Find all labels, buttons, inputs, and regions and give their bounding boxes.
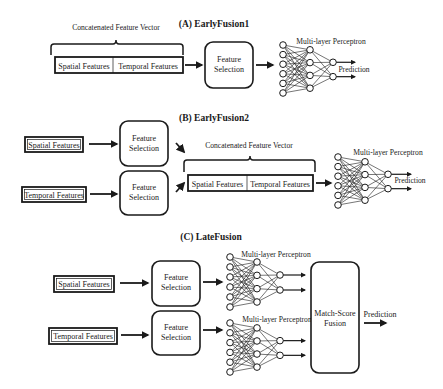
panel-a-fs-line1: Feature: [217, 55, 241, 64]
panel-c-title: (C) LateFusion: [180, 232, 242, 243]
panel-a-fs-line2: Selection: [214, 65, 244, 74]
panel-c-spatial-input: Spatial Features: [54, 276, 114, 292]
panel-a-mlp-label: Multi-layer Perceptron: [296, 37, 366, 46]
panel-b-mlp-label: Multi-layer Perceptron: [353, 148, 423, 157]
panel-b-title: (B) EarlyFusion2: [179, 113, 249, 124]
panel-c-fs1-line1: Feature: [164, 273, 188, 282]
panel-c-feature-selection-temporal: Feature Selection: [152, 311, 200, 355]
panel-a-temporal-segment: Temporal Features: [118, 62, 178, 71]
fusion-architectures-diagram: (A) EarlyFusion1 Concatenated Feature Ve…: [0, 0, 443, 389]
panel-b-concat-label: Concatenated Feature Vector: [205, 141, 293, 150]
panel-c-mlp-spatial-icon: [227, 254, 305, 311]
panel-c-mlp2-label: Multi-layer Perceptron: [242, 315, 312, 324]
panel-c-temporal-label: Temporal Features: [53, 332, 113, 341]
panel-b-fs2-line1: Feature: [132, 183, 156, 192]
panel-b-fs2-line2: Selection: [129, 193, 159, 202]
panel-a-brace-icon: [51, 40, 183, 55]
panel-c-mlp1-label: Multi-layer Perceptron: [241, 250, 311, 259]
panel-c-fusion-line1: Match-Score: [314, 309, 356, 318]
panel-a-concat-vector: Spatial Features Temporal Features: [55, 57, 183, 73]
panel-late-fusion: (C) LateFusion Spatial Features Temporal…: [49, 232, 396, 375]
panel-c-match-score-fusion: Match-Score Fusion: [311, 262, 359, 373]
panel-a-feature-selection: Feature Selection: [205, 42, 253, 88]
panel-c-fs2-line1: Feature: [164, 323, 188, 332]
panel-b-temporal-input: Temporal Features: [22, 187, 86, 202]
panel-a-concat-label: Concatenated Feature Vector: [72, 23, 160, 32]
panel-c-fs1-line2: Selection: [161, 283, 191, 292]
panel-a-prediction-label: Prediction: [338, 65, 369, 74]
panel-b-feature-selection-spatial: Feature Selection: [120, 121, 168, 166]
panel-c-fusion-line2: Fusion: [324, 319, 346, 328]
panel-b-spatial-label: Spatial Features: [28, 141, 79, 150]
panel-c-temporal-input: Temporal Features: [49, 328, 117, 344]
panel-b-diag-arrow-icon: [176, 183, 184, 192]
panel-b-temporal-label: Temporal Features: [24, 191, 84, 200]
panel-c-spatial-label: Spatial Features: [58, 280, 109, 289]
panel-early-fusion-2: (B) EarlyFusion2 Spatial Features Tempor…: [22, 113, 426, 215]
panel-a-spatial-segment: Spatial Features: [58, 62, 109, 71]
panel-b-fs1-line2: Selection: [129, 144, 159, 153]
panel-a-title: (A) EarlyFusion1: [179, 19, 250, 30]
panel-c-prediction-label: Prediction: [364, 310, 397, 319]
panel-c-feature-selection-spatial: Feature Selection: [152, 261, 200, 306]
panel-b-spatial-segment: Spatial Features: [192, 180, 243, 189]
panel-c-mlp-temporal-icon: [227, 320, 305, 376]
panel-b-brace-icon: [184, 156, 315, 172]
panel-b-spatial-input: Spatial Features: [25, 137, 83, 152]
panel-b-prediction-label: Prediction: [394, 176, 425, 185]
panel-b-concat-vector: Spatial Features Temporal Features: [188, 175, 313, 191]
panel-b-temporal-segment: Temporal Features: [250, 180, 310, 189]
panel-b-fs1-line1: Feature: [132, 134, 156, 143]
panel-c-fs2-line2: Selection: [161, 333, 191, 342]
panel-b-feature-selection-temporal: Feature Selection: [120, 171, 168, 215]
panel-b-diag-arrow-icon: [176, 143, 184, 152]
panel-early-fusion-1: (A) EarlyFusion1 Concatenated Feature Ve…: [51, 19, 370, 96]
